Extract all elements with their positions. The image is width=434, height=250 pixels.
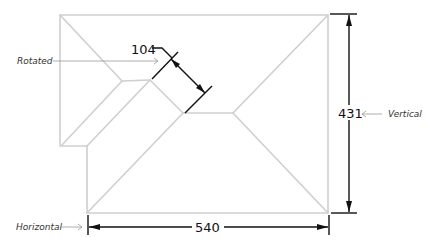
hip-line-top-left bbox=[60, 15, 122, 81]
roof-perimeter bbox=[60, 15, 328, 213]
extension-line-1 bbox=[152, 52, 178, 79]
vertical-dimension[interactable]: 431 bbox=[330, 14, 363, 213]
hip-line-bottom-right bbox=[233, 113, 328, 213]
horizontal-dimension[interactable]: 540 bbox=[88, 215, 329, 235]
arrowhead-icon bbox=[346, 201, 352, 212]
rotated-label: Rotated bbox=[17, 56, 53, 66]
roof-plan-drawing: 104 Rotated 431 Vertical 540 Horizontal bbox=[0, 0, 434, 250]
roof-outline bbox=[60, 15, 328, 213]
arrowhead-icon bbox=[89, 224, 100, 230]
hip-line-left-lower bbox=[62, 81, 122, 145]
vertical-callout: Vertical bbox=[362, 109, 422, 119]
horizontal-label: Horizontal bbox=[16, 222, 62, 232]
valley-line bbox=[87, 80, 150, 146]
vertical-dimension-value: 431 bbox=[338, 106, 363, 121]
hip-connector bbox=[150, 80, 183, 113]
horizontal-dimension-value: 540 bbox=[195, 220, 220, 235]
rotated-callout: Rotated bbox=[17, 56, 158, 66]
extension-line-2 bbox=[185, 86, 212, 113]
ridge-short bbox=[122, 80, 150, 81]
hip-line-top-right bbox=[233, 15, 328, 113]
vertical-label: Vertical bbox=[388, 109, 422, 119]
roof-ridges-hips bbox=[60, 15, 328, 213]
hip-line-bottom-left bbox=[87, 113, 183, 213]
horizontal-callout: Horizontal bbox=[16, 222, 82, 232]
arrowhead-icon bbox=[346, 15, 352, 26]
arrowhead-icon bbox=[317, 224, 328, 230]
rotated-dimension-value: 104 bbox=[131, 42, 156, 57]
